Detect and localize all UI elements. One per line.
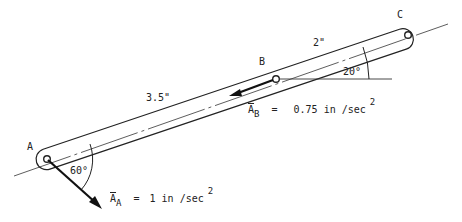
kinematics-diagram: A B C 3.5" 2" 60° 20° AB = 0.75 in /sec2… (0, 0, 462, 222)
rod-outline (33, 26, 416, 173)
accel-exponent-B: 2 (370, 97, 375, 107)
point-label-B: B (259, 56, 265, 67)
accel-subscript-B: B (254, 109, 259, 119)
accel-value-B: 0.75 in /sec (294, 104, 366, 115)
rod-drawing (0, 0, 462, 222)
angle-label-B: 20° (343, 66, 361, 77)
accel-equals-B: = (271, 104, 277, 115)
dimension-BC: 2" (313, 37, 325, 48)
dimension-AB: 3.5" (146, 92, 170, 103)
point-label-C: C (397, 9, 403, 20)
accel-exponent-A: 2 (208, 186, 213, 196)
accel-subscript-A: A (116, 198, 121, 208)
accel-equals-A: = (133, 193, 139, 204)
angle-label-A: 60° (70, 165, 88, 176)
accel-value-A: 1 in /sec (150, 193, 204, 204)
center-line (14, 24, 448, 176)
acceleration-label-B: AB = 0.75 in /sec2 (248, 104, 375, 115)
pin-C (405, 32, 412, 39)
pin-B (273, 76, 280, 83)
arrowhead-B (229, 89, 242, 96)
point-label-A: A (27, 141, 33, 152)
acceleration-label-A: AA = 1 in /sec2 (110, 193, 213, 204)
